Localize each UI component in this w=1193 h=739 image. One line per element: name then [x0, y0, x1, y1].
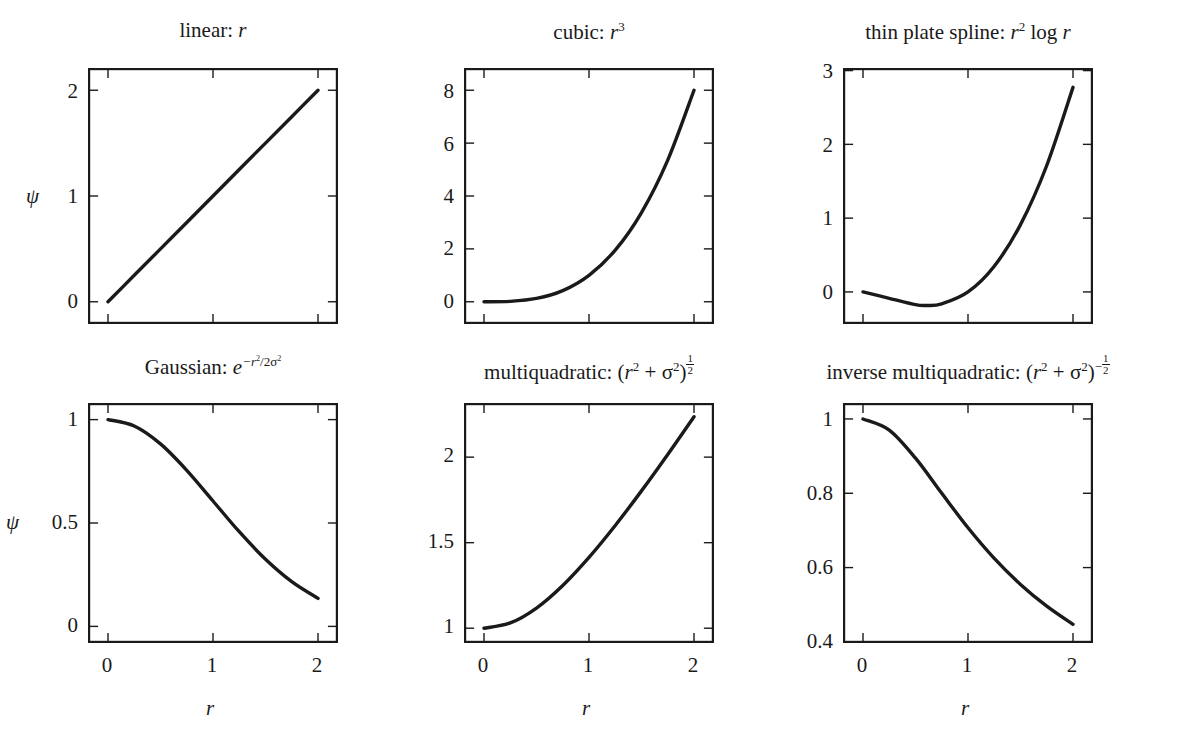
curve-cubic	[484, 90, 694, 302]
curve-thin-plate-spline	[863, 87, 1073, 305]
xtick-imq-0: 0	[842, 655, 882, 676]
panel-title-tps-text: thin plate spline	[865, 20, 999, 44]
panel-linear	[88, 68, 338, 324]
xtick-gaussian-1: 1	[192, 655, 232, 676]
ylabel-linear: ψ	[26, 186, 39, 207]
xlabel-inverse-multiquadratic: r	[961, 698, 969, 719]
ytick-gaussian-2: 1	[48, 409, 78, 430]
ytick-gaussian-1: 0.5	[28, 512, 78, 533]
y-ticks-tps	[844, 71, 1092, 292]
x-ticks-imq	[863, 404, 1073, 642]
ytick-cubic-1: 2	[424, 238, 454, 259]
axis-frame-cubic	[465, 69, 713, 323]
xtick-gaussian-0: 0	[87, 655, 127, 676]
plot-gaussian	[88, 403, 338, 643]
axis-frame-multiquadratic	[465, 404, 713, 642]
ytick-imq-3: 1	[803, 409, 833, 430]
axis-frame-tps	[844, 69, 1092, 323]
y-ticks-gaussian	[89, 420, 337, 627]
ytick-gaussian-0: 0	[48, 615, 78, 636]
ytick-cubic-4: 8	[424, 81, 454, 102]
panel-title-mq-text: multiquadratic	[484, 360, 606, 384]
xtick-imq-1: 1	[947, 655, 987, 676]
ytick-mq-1: 1.5	[404, 531, 454, 552]
plot-multiquadratic	[464, 403, 714, 643]
ytick-tps-2: 2	[803, 135, 833, 156]
panel-title-cubic: cubic: r3	[464, 20, 714, 43]
panel-title-cubic-text: cubic	[553, 20, 598, 44]
axis-frame-gaussian	[89, 404, 337, 642]
ytick-cubic-3: 6	[424, 134, 454, 155]
panel-title-multiquadratic: multiquadratic: (r2 + σ2)12	[439, 353, 739, 383]
panel-title-imq-text: inverse multiquadratic	[826, 360, 1014, 384]
xtick-imq-2: 2	[1052, 655, 1092, 676]
ytick-linear-1: 1	[48, 186, 78, 207]
xtick-mq-0: 0	[463, 655, 503, 676]
y-ticks-multiquadratic	[465, 457, 713, 628]
x-ticks-gaussian	[108, 404, 318, 642]
axis-frame-inverse-multiquadratic	[844, 404, 1092, 642]
xtick-mq-1: 1	[568, 655, 608, 676]
ytick-imq-2: 0.8	[783, 483, 833, 504]
x-ticks-multiquadratic	[484, 404, 694, 642]
ytick-mq-0: 1	[424, 616, 454, 637]
curve-gaussian	[108, 420, 318, 599]
plot-inverse-multiquadratic	[843, 403, 1093, 643]
panel-title-linear: linear: r	[88, 20, 338, 41]
x-ticks-cubic	[484, 69, 694, 323]
curve-inverse-multiquadratic	[863, 419, 1073, 624]
ytick-tps-1: 1	[803, 208, 833, 229]
ytick-cubic-2: 4	[424, 186, 454, 207]
plot-thin-plate-spline	[843, 68, 1093, 324]
ytick-tps-0: 0	[803, 282, 833, 303]
panel-gaussian	[88, 403, 338, 643]
panel-title-gaussian: Gaussian: e−r2/2σ2	[88, 355, 338, 378]
ytick-cubic-0: 0	[424, 291, 454, 312]
curve-multiquadratic	[484, 417, 694, 628]
ytick-imq-1: 0.6	[783, 557, 833, 578]
xlabel-multiquadratic: r	[582, 698, 590, 719]
panel-title-inverse-multiquadratic: inverse multiquadratic: (r2 + σ2)−12	[758, 353, 1178, 383]
panel-title-linear-text: linear	[179, 18, 227, 42]
ylabel-gaussian: ψ	[6, 512, 19, 533]
panel-multiquadratic	[464, 403, 714, 643]
xtick-mq-2: 2	[673, 655, 713, 676]
panel-title-gaussian-text: Gaussian	[145, 355, 222, 379]
plot-cubic	[464, 68, 714, 324]
ytick-linear-0: 0	[48, 291, 78, 312]
ytick-mq-2: 2	[424, 445, 454, 466]
x-ticks-tps	[863, 69, 1073, 323]
ytick-imq-0: 0.4	[783, 631, 833, 652]
rbf-kernel-figure: linear: r 0 1 2 ψ cubic: r3 0 2 4 6 8 th…	[0, 0, 1193, 739]
panel-inverse-multiquadratic	[843, 403, 1093, 643]
xlabel-gaussian: r	[206, 698, 214, 719]
curve-linear	[108, 90, 318, 302]
panel-title-thin-plate-spline: thin plate spline: r2 log r	[818, 20, 1118, 43]
y-ticks-cubic	[465, 90, 713, 302]
xtick-gaussian-2: 2	[297, 655, 337, 676]
ytick-tps-3: 3	[803, 61, 833, 82]
ytick-linear-2: 2	[48, 81, 78, 102]
panel-thin-plate-spline	[843, 68, 1093, 324]
plot-linear	[88, 68, 338, 324]
panel-cubic	[464, 68, 714, 324]
